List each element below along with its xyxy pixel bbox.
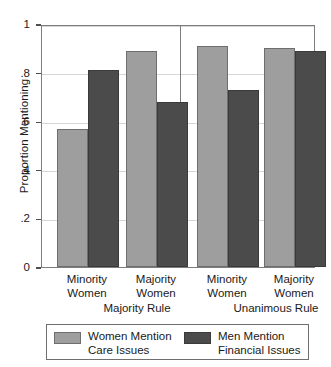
plot-area <box>41 25 315 268</box>
category-label: MajorityWomen <box>116 273 196 300</box>
legend-label-women-care: Women Mention Care Issues <box>88 330 172 357</box>
legend-swatch-light <box>54 332 81 344</box>
group-label: Unanimous Rule <box>216 302 331 314</box>
gridline <box>42 26 314 27</box>
category-label: MinorityWomen <box>47 273 127 300</box>
bar <box>126 51 157 267</box>
chart-legend: Women Mention Care Issues Men Mention Fi… <box>46 324 309 360</box>
bar <box>295 51 326 267</box>
bar <box>157 102 188 267</box>
legend-label-line2: Financial Issues <box>218 344 300 358</box>
y-axis-tick-label: .8 <box>4 67 30 79</box>
category-label-line1: Minority <box>47 273 127 287</box>
legend-label-line1: Men Mention <box>218 330 300 344</box>
y-axis-tick-label: .2 <box>4 212 30 224</box>
legend-entry-men-financial: Men Mention Financial Issues <box>184 330 300 357</box>
y-axis-tick-label: .4 <box>4 164 30 176</box>
legend-label-line2: Care Issues <box>88 344 172 358</box>
legend-swatch-dark <box>184 332 211 344</box>
y-axis-tick-label: 0 <box>4 261 30 273</box>
y-axis-tick-label: .6 <box>4 115 30 127</box>
category-label-line2: Women <box>47 287 127 301</box>
category-label-line2: Women <box>254 287 331 301</box>
group-label: Majority Rule <box>77 302 197 314</box>
category-label-line1: Majority <box>116 273 196 287</box>
legend-label-men-financial: Men Mention Financial Issues <box>218 330 300 357</box>
bar-chart-figure: Proportion Mentioning 1.8.6.4.20 Minorit… <box>0 0 331 367</box>
category-label: MajorityWomen <box>254 273 331 300</box>
bar <box>228 90 259 267</box>
legend-entry-women-care: Women Mention Care Issues <box>54 330 172 357</box>
bar <box>88 70 119 267</box>
y-axis-tick-label: 1 <box>4 18 30 30</box>
bar <box>197 46 228 267</box>
category-label-line1: Majority <box>254 273 331 287</box>
bar <box>57 129 88 268</box>
bar <box>264 48 295 267</box>
legend-label-line1: Women Mention <box>88 330 172 344</box>
category-label-line2: Women <box>116 287 196 301</box>
